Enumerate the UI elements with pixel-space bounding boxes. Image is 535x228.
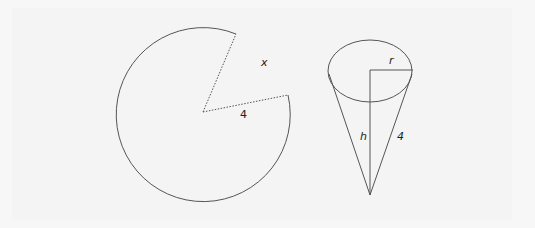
cone-height-label: h [360,130,367,143]
cone-right-side [370,74,412,195]
cone-slant-label: 4 [397,130,404,143]
sector-radius-label: 4 [240,108,247,121]
cone-radius-label: r [389,54,395,67]
geometry-figure: x 4 r h 4 [0,0,535,228]
cone: r h 4 [328,40,413,195]
sector-radius-upper [203,34,236,112]
sector-arc [116,28,290,202]
arc-gap-label: x [260,56,268,69]
circle-sector: x 4 [116,28,290,202]
